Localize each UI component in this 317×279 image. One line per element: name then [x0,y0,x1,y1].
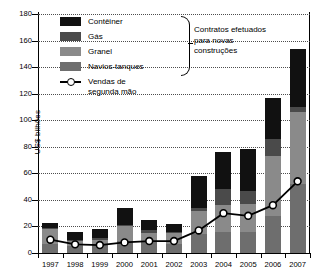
legend-item-granel: Granel [60,44,180,59]
x-tick [38,253,39,258]
y-tick-label: 120 [2,90,32,98]
y-tick-label: 40 [2,196,32,204]
y-tick-label: 100 [2,116,32,124]
legend-label-navios-tanques: Navios-tanques [88,62,144,71]
y-tick-label: 0 [2,249,32,257]
legend-label-vendas-segunda-mao: Vendas de segunda mão [88,77,136,97]
line-point-2007[interactable] [294,178,301,185]
line-vendas-segunda-mao [50,181,297,245]
legend-label-granel: Granel [88,47,112,56]
y-tick-label: 80 [2,143,32,151]
line-point-1998[interactable] [72,241,79,248]
x-tick [261,253,262,258]
y-tick-label: 140 [2,63,32,71]
line-point-1999[interactable] [96,242,103,249]
legend-label-vendas-line1: Vendas de [88,77,126,86]
legend-label-gas: Gás [88,32,103,41]
x-tick-label-2007: 2007 [283,260,313,269]
y-tick-label: 60 [2,169,32,177]
line-marker-icon [60,77,81,86]
y-tick-label: 180 [2,10,32,18]
line-point-2002[interactable] [171,238,178,245]
annotation-contratos: Contratos efetuados para novas construçõ… [194,25,290,57]
x-tick [310,253,311,258]
legend-item-container: Contêiner [60,14,180,29]
annotation-line3: construções [194,46,237,55]
legend-item-gas: Gás [60,29,180,44]
line-point-2000[interactable] [121,239,128,246]
x-tick [162,253,163,258]
chart-container: US$ bilhões 020406080100120140160180 199… [0,0,317,279]
x-axis-line [38,253,311,254]
line-point-1997[interactable] [47,236,54,243]
line-point-2005[interactable] [245,212,252,219]
color-swatch-gas [60,32,81,41]
legend-label-vendas-line2: segunda mão [88,87,136,96]
brace-bracket [181,16,190,76]
color-swatch-navios-tanques [60,62,81,71]
x-tick [63,253,64,258]
legend-label-container: Contêiner [88,17,123,26]
line-point-2006[interactable] [270,202,277,209]
annotation-line1: Contratos efetuados [194,25,266,34]
legend-item-navios-tanques: Navios-tanques [60,59,180,74]
brace-pointer [188,43,193,44]
x-tick [186,253,187,258]
y-tick-label: 20 [2,222,32,230]
line-point-2001[interactable] [146,238,153,245]
x-tick [137,253,138,258]
x-tick [87,253,88,258]
x-tick [211,253,212,258]
x-tick [285,253,286,258]
y-tick-label: 160 [2,37,32,45]
color-swatch-granel [60,47,81,56]
chart-legend: Contêiner Gás Granel Navios-tanques Vend… [60,14,180,97]
line-point-2004[interactable] [220,210,227,217]
color-swatch-container [60,17,81,26]
x-tick [112,253,113,258]
annotation-line2: para novas [194,36,234,45]
x-tick [236,253,237,258]
line-point-2003[interactable] [195,227,202,234]
legend-item-vendas-segunda-mao: Vendas de segunda mão [60,77,180,97]
